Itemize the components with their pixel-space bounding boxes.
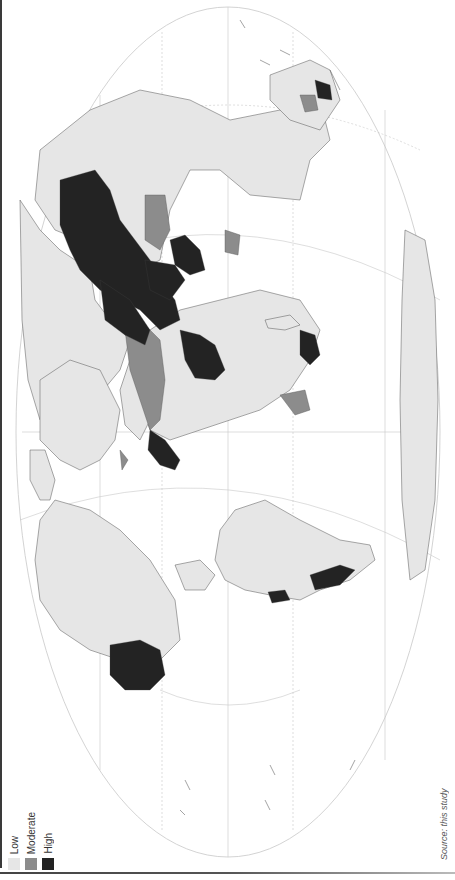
legend: Low Moderate High xyxy=(8,780,68,870)
legend-swatch-high xyxy=(42,858,54,870)
world-map xyxy=(0,0,455,868)
source-note: Source: this study xyxy=(439,790,449,860)
legend-label-low: Low xyxy=(9,836,20,854)
bottom-border-rule xyxy=(0,872,455,874)
legend-label-high: High xyxy=(43,833,54,854)
legend-item-low: Low xyxy=(8,836,20,870)
legend-label-moderate: Moderate xyxy=(26,812,37,854)
legend-item-moderate: Moderate xyxy=(25,812,37,870)
legend-item-high: High xyxy=(42,833,54,870)
region-low xyxy=(20,60,438,660)
legend-swatch-low xyxy=(8,858,20,870)
legend-swatch-moderate xyxy=(25,858,37,870)
